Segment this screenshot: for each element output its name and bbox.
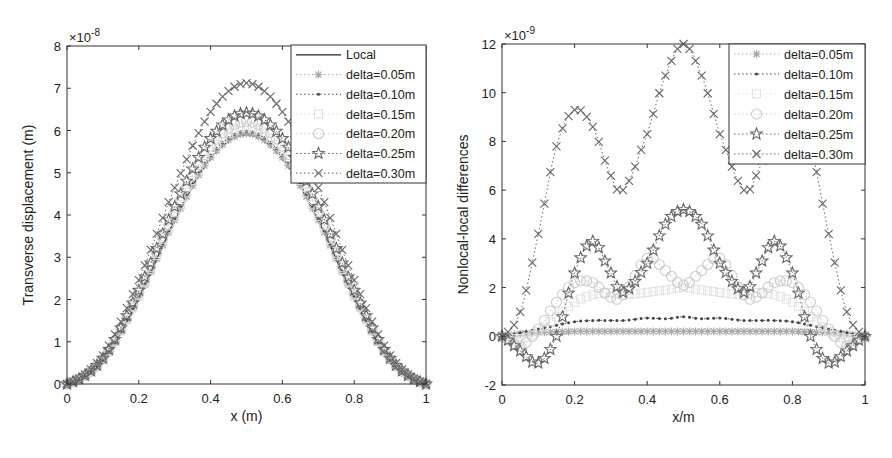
x-tick-label: 0	[63, 391, 70, 406]
y-tick-label: 5	[54, 166, 61, 181]
figure-canvas: 00.20.40.60.81012345678×10-8x (m)Transve…	[0, 0, 892, 458]
legend-label: Local	[346, 48, 376, 62]
legend-label: delta=0.05m	[784, 48, 853, 62]
x-tick-label: 1	[422, 391, 429, 406]
legend: delta=0.05mdelta=0.10mdelta=0.15mdelta=0…	[729, 44, 865, 164]
y-tick-label: 2	[489, 281, 496, 296]
legend-label: delta=0.05m	[346, 68, 415, 82]
x-tick-label: 0.8	[783, 392, 801, 407]
legend-label: delta=0.30m	[784, 148, 853, 162]
series-delta-0-25m	[496, 204, 870, 368]
x-tick-label: 0	[498, 392, 505, 407]
legend-box	[729, 44, 865, 164]
y-tick-label: 10	[482, 86, 496, 101]
y-tick-label: 6	[54, 124, 61, 139]
y-tick-label: 2	[54, 293, 61, 308]
y-tick-label: 4	[54, 208, 61, 223]
legend-label: delta=0.20m	[346, 127, 415, 141]
legend-label: delta=0.10m	[346, 88, 415, 102]
x-axis-label: x/m	[672, 409, 695, 425]
x-tick-label: 0.4	[638, 392, 656, 407]
legend-label: delta=0.30m	[346, 167, 415, 181]
y-tick-label: 0	[54, 377, 61, 392]
series-line	[502, 210, 865, 364]
x-tick-label: 0.4	[202, 391, 220, 406]
legend-label: delta=0.15m	[346, 108, 415, 122]
y-exponent-label: ×10-8	[69, 27, 100, 45]
x-tick-label: 1	[861, 392, 868, 407]
y-tick-label: 3	[54, 250, 61, 265]
y-exponent-label: ×10-9	[504, 25, 535, 43]
legend-label: delta=0.20m	[784, 108, 853, 122]
y-tick-label: 0	[489, 329, 496, 344]
y-tick-label: 6	[489, 183, 496, 198]
x-axis-label: x (m)	[231, 408, 263, 424]
legend: Localdelta=0.05mdelta=0.10mdelta=0.15mde…	[291, 45, 426, 183]
x-tick-label: 0.8	[345, 391, 363, 406]
right-chart-differences: 00.20.40.60.81-2024681012×10-9x/mNonloca…	[455, 25, 871, 425]
y-tick-label: 1	[54, 335, 61, 350]
y-tick-label: 8	[489, 134, 496, 149]
left-chart-displacement: 00.20.40.60.81012345678×10-8x (m)Transve…	[20, 27, 432, 424]
legend-label: delta=0.10m	[784, 68, 853, 82]
x-tick-label: 0.2	[566, 392, 584, 407]
x-tick-label: 0.6	[711, 392, 729, 407]
x-tick-label: 0.6	[273, 391, 291, 406]
y-axis-label: Transverse displacement (m)	[20, 125, 36, 306]
figure: 00.20.40.60.81012345678×10-8x (m)Transve…	[0, 0, 892, 458]
y-axis-label: Nonlocal-local differences	[455, 134, 471, 294]
legend-label: delta=0.25m	[784, 128, 853, 142]
y-tick-label: -2	[484, 378, 496, 393]
y-tick-label: 7	[54, 81, 61, 96]
y-tick-label: 4	[489, 232, 496, 247]
x-tick-label: 0.2	[130, 391, 148, 406]
y-tick-label: 12	[482, 37, 496, 52]
legend-label: delta=0.25m	[346, 147, 415, 161]
legend-label: delta=0.15m	[784, 88, 853, 102]
y-tick-label: 8	[54, 39, 61, 54]
